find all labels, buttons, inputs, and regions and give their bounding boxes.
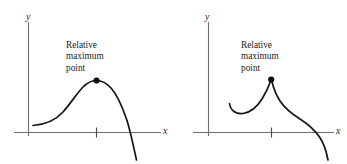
x-axis-label: x [163, 126, 167, 136]
annotation-line-3: point [66, 63, 104, 74]
panel-left-smooth-maximum: y x Relative maximum point [0, 0, 173, 164]
relative-maximum-point-annotation: Relative maximum point [241, 40, 279, 74]
relative-maximum-point-dot [93, 77, 99, 83]
relative-maximum-point-figure: y x Relative maximum point y x Relative [0, 0, 347, 164]
x-axis-label: x [336, 126, 340, 136]
annotation-line-1: Relative [66, 40, 104, 51]
relative-maximum-point-dot [268, 76, 274, 82]
annotation-line-2: maximum [241, 51, 279, 62]
y-axis-label: y [26, 12, 30, 22]
panel-right-cusp-maximum: y x Relative maximum point [174, 0, 347, 164]
smooth-maximum-curve [33, 81, 137, 161]
annotation-line-2: maximum [66, 51, 104, 62]
annotation-line-1: Relative [241, 40, 279, 51]
cusp-left-branch [230, 81, 271, 114]
cusp-right-branch [272, 81, 328, 161]
annotation-line-3: point [241, 63, 279, 74]
y-axis-label: y [205, 12, 209, 22]
relative-maximum-point-annotation: Relative maximum point [66, 40, 104, 74]
